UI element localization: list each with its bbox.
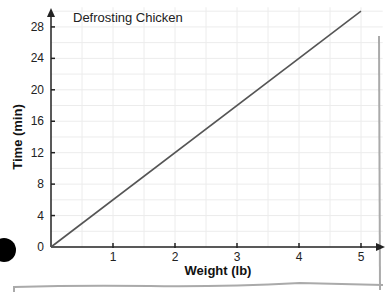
y-tick-label: 0 [37,240,44,254]
x-tick-label: 4 [296,250,303,264]
x-tick-label: 1 [110,250,117,264]
x-axis-title: Weight (lb) [185,263,252,278]
page-edge-right [379,36,380,290]
x-tick-label: 2 [172,250,179,264]
y-axis-title: Time (min) [10,104,25,170]
y-tick-label: 24 [31,51,45,65]
y-tick-label: 28 [31,20,45,34]
page-edge-bottom [14,283,383,292]
grid [51,7,383,247]
y-tick-label: 4 [37,209,44,223]
y-axis-arrow-icon [47,8,55,17]
chart-title: Defrosting Chicken [73,10,183,25]
y-tick-label: 8 [37,177,44,191]
x-tick-label: 5 [358,250,365,264]
y-tick-label: 12 [31,146,45,160]
axes: 123450481216202428 [31,8,385,264]
y-tick-label: 20 [31,83,45,97]
y-tick-label: 16 [31,114,45,128]
x-tick-label: 3 [234,250,241,264]
hole-punch-icon [0,238,16,262]
chart: 123450481216202428 Defrosting Chicken We… [0,0,386,295]
labels: Defrosting Chicken Weight (lb) Time (min… [10,10,251,278]
